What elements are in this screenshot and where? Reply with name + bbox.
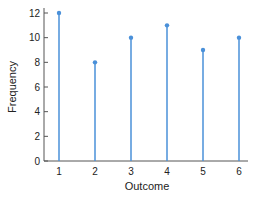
y-tick-label: 4 <box>34 106 40 117</box>
stem-3 <box>129 35 133 161</box>
x-tick-label: 1 <box>56 166 62 177</box>
y-axis-title: Frequency <box>6 61 18 113</box>
stem-5 <box>201 48 205 161</box>
stem-2 <box>93 60 97 161</box>
stem-marker <box>93 60 97 64</box>
stem-marker <box>165 23 169 27</box>
y-tick-label: 10 <box>29 32 41 43</box>
y-tick-label: 6 <box>34 82 40 93</box>
x-tick-label: 3 <box>128 166 134 177</box>
y-tick-label: 2 <box>34 131 40 142</box>
data-stems <box>57 11 241 161</box>
y-axis: 024681012 <box>29 8 48 167</box>
stem-6 <box>237 35 241 161</box>
stem-marker <box>129 35 133 39</box>
x-axis-title: Outcome <box>125 180 170 192</box>
y-tick-label: 8 <box>34 57 40 68</box>
stem-1 <box>57 11 61 161</box>
stem-marker <box>57 11 61 15</box>
x-tick-label: 6 <box>236 166 242 177</box>
stem-4 <box>165 23 169 161</box>
stem-chart: 024681012 123456 Outcome Frequency <box>0 0 257 201</box>
x-tick-label: 5 <box>200 166 206 177</box>
stem-marker <box>237 35 241 39</box>
x-tick-label: 2 <box>92 166 98 177</box>
x-axis: 123456 <box>44 161 248 177</box>
y-tick-label: 0 <box>34 156 40 167</box>
x-tick-label: 4 <box>164 166 170 177</box>
y-tick-label: 12 <box>29 8 41 19</box>
stem-marker <box>201 48 205 52</box>
